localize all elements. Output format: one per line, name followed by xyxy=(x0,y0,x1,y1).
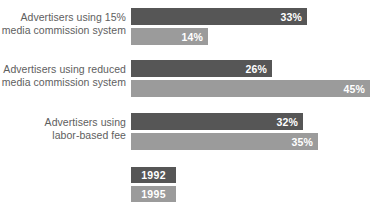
category-label-2: Advertisers using labor-based fee xyxy=(0,116,126,141)
legend-label-1995: 1995 xyxy=(141,188,166,200)
bar-value-1995-category-2: 35% xyxy=(291,136,318,148)
category-label-0-line-1: media commission system xyxy=(0,24,126,37)
category-label-1-line-0: Advertisers using reduced xyxy=(0,63,126,76)
category-label-0-line-0: Advertisers using 15% xyxy=(0,11,126,24)
bar-value-1992-category-2: 32% xyxy=(276,116,303,128)
grouped-bar-chart: Advertisers using 15% media commission s… xyxy=(0,0,382,205)
legend-label-1992: 1992 xyxy=(141,169,166,181)
category-label-2-line-0: Advertisers using xyxy=(0,116,126,129)
category-label-0: Advertisers using 15% media commission s… xyxy=(0,11,126,36)
category-label-1-line-1: media commission system xyxy=(0,76,126,89)
bar-value-1995-category-1: 45% xyxy=(343,83,370,95)
bar-1992-category-2: 32% xyxy=(131,113,303,130)
bar-1995-category-0: 14% xyxy=(131,28,208,45)
bar-value-1995-category-0: 14% xyxy=(181,31,208,43)
bar-1995-category-1: 45% xyxy=(131,80,370,97)
bar-value-1992-category-0: 33% xyxy=(280,11,307,23)
legend-item-1995: 1995 xyxy=(131,186,176,202)
legend-item-1992: 1992 xyxy=(131,167,176,183)
bar-value-1992-category-1: 26% xyxy=(245,63,272,75)
bar-1992-category-0: 33% xyxy=(131,8,307,25)
category-label-2-line-1: labor-based fee xyxy=(0,129,126,142)
bar-1992-category-1: 26% xyxy=(131,60,272,77)
bar-1995-category-2: 35% xyxy=(131,133,318,150)
category-label-1: Advertisers using reduced media commissi… xyxy=(0,63,126,88)
